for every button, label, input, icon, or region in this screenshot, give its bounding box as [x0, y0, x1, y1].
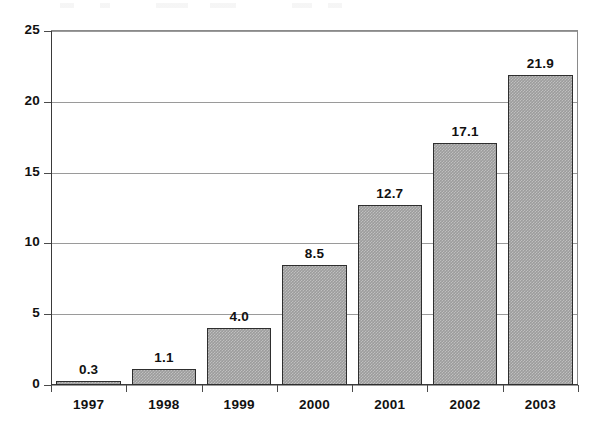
y-tick-mark-0	[44, 385, 51, 386]
bar-2001[interactable]	[358, 205, 422, 385]
bar-1998[interactable]	[132, 369, 196, 385]
x-tick-mark	[427, 385, 428, 392]
x-tick-mark	[352, 385, 353, 392]
y-tick-label-text: 20	[8, 93, 40, 108]
x-tick-mark	[503, 385, 504, 392]
x-tick-mark	[277, 385, 278, 392]
x-category-label-1997: 1997	[49, 397, 129, 412]
bar-value-label-2001: 12.7	[360, 186, 420, 201]
x-category-label-2000: 2000	[275, 397, 355, 412]
x-tick-mark	[126, 385, 127, 392]
y-tick-mark-15	[44, 173, 51, 174]
y-tick-mark-20	[44, 102, 51, 103]
x-category-label-2002: 2002	[425, 397, 505, 412]
bar-value-label-1997: 0.3	[59, 362, 119, 377]
bar-value-label-1998: 1.1	[134, 350, 194, 365]
x-tick-mark	[202, 385, 203, 392]
bar-value-label-2002: 17.1	[435, 124, 495, 139]
bar-value-label-2000: 8.5	[285, 246, 345, 261]
bar-1999[interactable]	[207, 328, 271, 385]
bar-1997[interactable]	[56, 381, 120, 385]
y-tick-label-text: 15	[8, 164, 40, 179]
y-tick-label-text: 0	[8, 376, 40, 391]
x-tick-mark	[578, 385, 579, 392]
y-tick-label-text: 5	[8, 305, 40, 320]
y-tick-label-text: 25	[8, 22, 40, 37]
y-tick-mark-10	[44, 243, 51, 244]
scan-artifact	[60, 3, 480, 8]
bar-2002[interactable]	[433, 143, 497, 385]
bar-value-label-2003: 21.9	[510, 56, 570, 71]
y-tick-mark-25	[44, 31, 51, 32]
bar-value-label-1999: 4.0	[209, 309, 269, 324]
bar-2000[interactable]	[282, 265, 346, 385]
x-category-label-2001: 2001	[350, 397, 430, 412]
x-category-label-2003: 2003	[500, 397, 580, 412]
bar-chart: 0510152025 0.31.14.08.512.717.121.9 1997…	[0, 0, 598, 436]
x-category-label-1999: 1999	[199, 397, 279, 412]
x-tick-mark	[51, 385, 52, 392]
y-tick-mark-5	[44, 314, 51, 315]
gridline-0	[51, 385, 578, 386]
bar-2003[interactable]	[508, 75, 572, 385]
x-category-label-1998: 1998	[124, 397, 204, 412]
y-tick-label-text: 10	[8, 234, 40, 249]
